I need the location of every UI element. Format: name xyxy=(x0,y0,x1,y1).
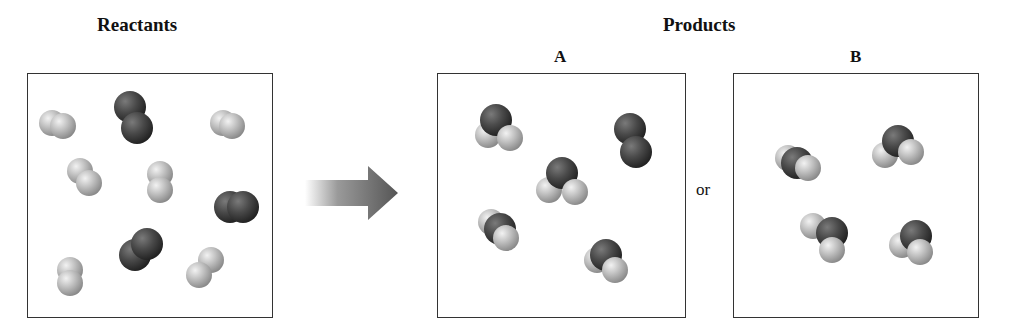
reaction-arrow-icon xyxy=(305,166,398,220)
product-a-molecule-o2 xyxy=(614,113,652,168)
reactant-molecule-o2 xyxy=(119,228,163,271)
reactant-molecule-h2 xyxy=(57,257,83,296)
molecule-scene xyxy=(0,0,1010,335)
hydrogen-atom-icon xyxy=(147,177,173,203)
reactant-molecule-h2 xyxy=(67,158,102,196)
reactant-molecule-o2 xyxy=(114,91,153,144)
hydrogen-atom-icon xyxy=(819,237,845,263)
hydrogen-atom-icon xyxy=(186,262,212,288)
product-a-molecule-h2o xyxy=(475,104,523,151)
hydrogen-atom-icon xyxy=(493,225,519,251)
product-a-molecule-h2o xyxy=(536,157,588,205)
hydrogen-atom-icon xyxy=(50,113,76,139)
hydrogen-atom-icon xyxy=(219,113,245,139)
hydrogen-atom-icon xyxy=(795,155,821,181)
reactant-molecule-o2 xyxy=(214,191,259,223)
hydrogen-atom-icon xyxy=(76,170,102,196)
oxygen-atom-icon xyxy=(620,136,652,168)
hydrogen-atom-icon xyxy=(898,139,924,165)
product-a-molecule-h2o xyxy=(584,239,628,283)
reactant-molecule-h2 xyxy=(210,110,245,139)
product-b-molecule-h2o xyxy=(775,145,821,181)
oxygen-atom-icon xyxy=(227,191,259,223)
product-a-molecule-h2o xyxy=(478,209,519,251)
hydrogen-atom-icon xyxy=(562,179,588,205)
reactant-molecule-h2 xyxy=(39,110,76,139)
hydrogen-atom-icon xyxy=(497,125,523,151)
reactant-molecule-h2 xyxy=(147,161,173,203)
hydrogen-atom-icon xyxy=(602,257,628,283)
oxygen-atom-icon xyxy=(121,112,153,144)
oxygen-atom-icon xyxy=(131,228,163,260)
product-b-molecule-h2o xyxy=(872,125,924,168)
hydrogen-atom-icon xyxy=(907,239,933,265)
product-b-molecule-h2o xyxy=(800,213,848,263)
product-b-molecule-h2o xyxy=(889,220,933,265)
hydrogen-atom-icon xyxy=(57,270,83,296)
reactant-molecule-h2 xyxy=(186,247,224,288)
